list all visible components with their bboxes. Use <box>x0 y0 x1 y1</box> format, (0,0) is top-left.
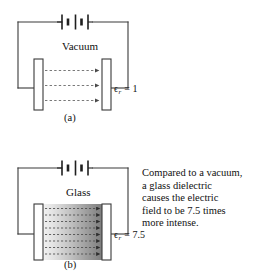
caption-line-3: causes the electric <box>142 192 246 205</box>
caption-line-5: more intense. <box>142 217 246 230</box>
capacitor-plate-right <box>102 59 111 110</box>
electric-field-arrows-vacuum <box>45 71 99 101</box>
epsilon-value: = 1 <box>122 83 138 94</box>
panel-a-medium-label: Vacuum <box>62 41 98 52</box>
battery-icon <box>57 15 93 30</box>
caption-line-2: a glass dielectric <box>142 180 246 193</box>
panel-a-letter: (a) <box>64 113 76 124</box>
glass-dielectric-slab <box>43 204 102 260</box>
panel-a-permittivity-label: ϵr = 1 <box>114 84 137 96</box>
capacitor-plate-left <box>34 59 43 110</box>
panel-b-letter: (b) <box>64 260 76 271</box>
caption-line-4: field to be 7.5 times <box>142 205 246 218</box>
panel-b-circuit <box>18 161 128 261</box>
epsilon-value: = 7.5 <box>122 229 145 240</box>
capacitor-plate-left <box>34 204 43 260</box>
panel-a-circuit <box>18 15 128 111</box>
caption-line-1: Compared to a vacuum, <box>142 167 246 180</box>
battery-icon <box>57 161 93 176</box>
panel-b-permittivity-label: ϵr = 7.5 <box>114 230 145 242</box>
panel-b-medium-label: Glass <box>66 187 90 198</box>
capacitor-plate-right <box>102 204 111 260</box>
dielectric-comparison-figure: Vacuum ϵr = 1 (a) Glass ϵr = 7.5 (b) Com… <box>0 0 254 275</box>
caption-text: Compared to a vacuum, a glass dielectric… <box>142 167 246 230</box>
